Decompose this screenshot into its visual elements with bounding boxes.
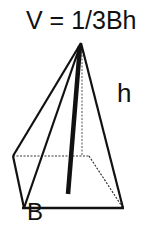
hidden-base-right-edge [89, 156, 123, 208]
pyramid-figure [0, 0, 167, 233]
base-left-edge [13, 156, 24, 208]
height-label: h [117, 78, 131, 109]
base-label: B [27, 198, 43, 226]
lateral-edge-front-right [81, 43, 123, 208]
height-line [68, 46, 80, 194]
